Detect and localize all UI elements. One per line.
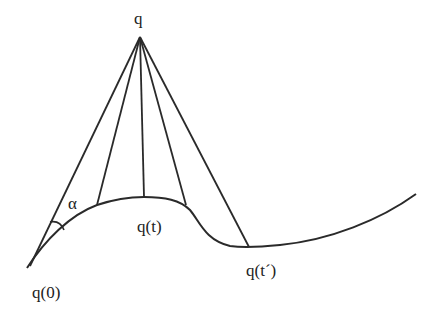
ray-to-q0 xyxy=(30,37,140,266)
label-q-t: q(t) xyxy=(137,217,162,236)
label-q-t-prime: q(t´) xyxy=(246,261,276,280)
label-apex-q: q xyxy=(134,9,143,28)
label-alpha: α xyxy=(68,194,77,213)
ray-4 xyxy=(140,37,186,205)
ray-2 xyxy=(97,37,140,205)
curve xyxy=(27,194,416,268)
geodesic-diagram: q α q(t) q(t´) q(0) xyxy=(0,0,439,315)
ray-to-qt xyxy=(140,37,144,197)
alpha-angle-arc xyxy=(50,222,64,230)
label-q-0: q(0) xyxy=(32,283,60,302)
